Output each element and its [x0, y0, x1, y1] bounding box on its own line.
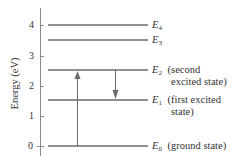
absorption-arrow-icon [75, 71, 81, 146]
level-e2-description: (second [168, 64, 201, 75]
level-e1-description: (first excited [168, 94, 221, 105]
tick-label-4: 4 [22, 19, 34, 30]
level-e4-label: E4 [152, 19, 162, 34]
level-e1-description-line2: state) [171, 106, 194, 117]
energy-levels [48, 25, 148, 146]
emission-arrow-icon [113, 70, 119, 99]
level-e2-subscript: 2 [158, 69, 162, 77]
level-e4-subscript: 4 [158, 24, 162, 32]
energy-level-diagram: 4 3 2 1 0 Energy (eV) E4 E3 E2 (second e… [0, 0, 247, 162]
tick-label-1: 1 [22, 110, 34, 121]
level-e0-subscript: 0 [158, 145, 162, 153]
level-e0-description: (ground state) [168, 140, 227, 151]
level-e3-label: E3 [152, 34, 162, 49]
tick-label-2: 2 [22, 80, 34, 91]
y-axis-title: Energy (eV) [9, 54, 20, 114]
level-e0-label: E0 (ground state) [152, 140, 226, 155]
level-e1-subscript: 1 [158, 99, 162, 107]
tick-label-3: 3 [22, 50, 34, 61]
level-e2-description-line2: excited state) [171, 76, 227, 87]
level-e3-subscript: 3 [158, 39, 162, 47]
tick-label-0: 0 [21, 140, 33, 151]
